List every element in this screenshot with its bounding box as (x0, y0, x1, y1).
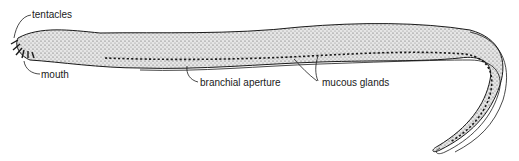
mouth-leader (24, 61, 40, 74)
ventral-fin-outline (140, 60, 500, 154)
label-branchial-aperture: branchial aperture (200, 78, 281, 88)
label-tentacles: tentacles (32, 10, 72, 20)
label-mouth: mouth (41, 70, 69, 80)
label-mucous-glands: mucous glands (322, 78, 389, 88)
